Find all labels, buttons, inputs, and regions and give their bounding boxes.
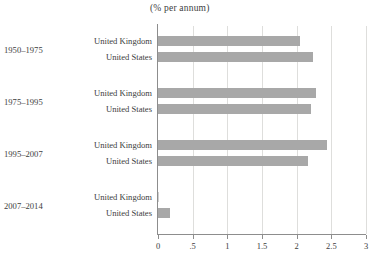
tick-label-1: 1: [225, 241, 229, 251]
tick-1: [227, 235, 228, 239]
country-label-united-kingdom: United Kingdom: [60, 36, 152, 46]
country-label-united-states: United States: [60, 52, 152, 62]
bar-1995-2007-united-kingdom: [158, 140, 327, 150]
period-label-1975-1995: 1975–1995: [4, 97, 66, 107]
bar-1975-1995-united-states: [158, 104, 311, 114]
period-label-1950-1975: 1950–1975: [4, 45, 66, 55]
period-label-1995-2007: 1995–2007: [4, 149, 66, 159]
tick-label-0: 0: [156, 241, 160, 251]
chart-title: (% per annum): [150, 3, 210, 13]
tick-1.5: [262, 235, 263, 239]
period-label-2007-2014: 2007–2014: [4, 201, 66, 211]
bar-2007-2014-united-kingdom: [158, 192, 159, 202]
country-label-united-kingdom: United Kingdom: [60, 88, 152, 98]
tick-label-1.5: 1.5: [257, 241, 268, 251]
bar-1950-1975-united-states: [158, 52, 313, 62]
tick-0: [158, 235, 159, 239]
bar-2007-2014-united-states: [158, 208, 170, 218]
country-label-united-states: United States: [60, 156, 152, 166]
country-label-united-kingdom: United Kingdom: [60, 140, 152, 150]
country-label-united-states: United States: [60, 208, 152, 218]
bar-1975-1995-united-kingdom: [158, 88, 316, 98]
tick-label-3: 3: [364, 241, 368, 251]
tick-label-2.5: 2.5: [326, 241, 337, 251]
tick-label-.5: .5: [189, 241, 195, 251]
gridline-2.5: [331, 26, 332, 234]
tick-label-2: 2: [295, 241, 299, 251]
country-label-united-kingdom: United Kingdom: [60, 192, 152, 202]
tick-2: [297, 235, 298, 239]
bar-1950-1975-united-kingdom: [158, 36, 300, 46]
country-label-united-states: United States: [60, 104, 152, 114]
tick-2.5: [331, 235, 332, 239]
bar-1995-2007-united-states: [158, 156, 308, 166]
gridline-3: [366, 26, 367, 234]
bar-chart: (% per annum) 0.511.522.53 1950–19751975…: [0, 0, 386, 267]
tick-.5: [193, 235, 194, 239]
tick-3: [366, 235, 367, 239]
